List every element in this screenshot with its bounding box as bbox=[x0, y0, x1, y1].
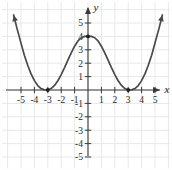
axes-group bbox=[6, 7, 160, 156]
coordinate-plane: -5-4-3-2-11234554321-1-2-3-4-5 xy bbox=[0, 0, 172, 170]
x-axis-arrow bbox=[153, 87, 160, 93]
y-tick-label: 1 bbox=[78, 72, 83, 82]
x-tick-label: 5 bbox=[153, 95, 158, 105]
grid-lines bbox=[2, 2, 170, 170]
y-tick-label: -3 bbox=[75, 126, 83, 136]
x-tick-label: 4 bbox=[139, 95, 144, 105]
x-axis-name: x bbox=[164, 83, 170, 95]
axis-names: xy bbox=[93, 1, 170, 95]
y-axis-arrow bbox=[85, 7, 91, 14]
y-tick-label: 3 bbox=[78, 45, 83, 55]
y-axis-name: y bbox=[93, 1, 99, 13]
y-tick-label: 5 bbox=[78, 18, 83, 28]
y-tick-label: -2 bbox=[75, 112, 83, 122]
y-tick-label: -5 bbox=[75, 152, 83, 162]
x-tick-label: -2 bbox=[57, 95, 65, 105]
marked-point bbox=[126, 88, 130, 92]
y-tick-label: 2 bbox=[78, 59, 83, 69]
y-tick-label: -4 bbox=[75, 139, 83, 149]
x-tick-label: 2 bbox=[112, 95, 117, 105]
x-tick-label: -3 bbox=[44, 95, 52, 105]
marked-point bbox=[46, 88, 50, 92]
y-tick-label: -1 bbox=[75, 99, 83, 109]
marked-point bbox=[86, 35, 90, 39]
x-tick-label: -4 bbox=[30, 95, 38, 105]
graph-figure: -5-4-3-2-11234554321-1-2-3-4-5 xy bbox=[0, 0, 172, 170]
x-tick-label: 3 bbox=[126, 95, 131, 105]
x-tick-label: -5 bbox=[17, 95, 25, 105]
x-tick-label: 1 bbox=[99, 95, 104, 105]
